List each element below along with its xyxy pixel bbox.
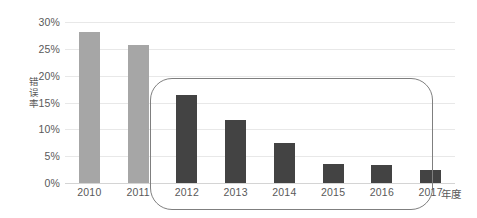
plot-area [65, 22, 455, 183]
x-axis-tick-labels: 20102011201220132014201520162017 [65, 186, 455, 198]
y-axis-tick-label: 5% [14, 150, 60, 162]
bar-series [65, 22, 455, 183]
y-axis-tick-label: 0% [14, 177, 60, 189]
gridline [65, 183, 455, 184]
x-axis-title: 年度 [441, 186, 461, 201]
bar-2017[interactable] [420, 170, 441, 183]
bar-slot [211, 22, 260, 183]
bar-slot [260, 22, 309, 183]
bar-2015[interactable] [323, 164, 344, 183]
bar-slot [114, 22, 163, 183]
bar-slot [309, 22, 358, 183]
bar-2011[interactable] [128, 45, 149, 183]
bar-2016[interactable] [371, 165, 392, 183]
chart-canvas: 错 误 率 0%5%10%15%20%25%30% 20102011201220… [0, 0, 477, 218]
x-axis-tick-label-2010: 2010 [65, 186, 114, 198]
x-axis-tick-label-2012: 2012 [163, 186, 212, 198]
x-axis-tick-label-2015: 2015 [309, 186, 358, 198]
y-axis-tick-labels: 0%5%10%15%20%25%30% [8, 22, 60, 183]
y-axis-tick-label: 15% [14, 97, 60, 109]
y-axis-tick-label: 10% [14, 123, 60, 135]
y-axis-tick-label: 30% [14, 16, 60, 28]
x-axis-tick-label-2011: 2011 [114, 186, 163, 198]
bar-2010[interactable] [79, 32, 100, 183]
bar-slot [163, 22, 212, 183]
x-axis-tick-label-2013: 2013 [211, 186, 260, 198]
x-axis-tick-label-2014: 2014 [260, 186, 309, 198]
y-axis-tick-label: 25% [14, 43, 60, 55]
bar-2013[interactable] [225, 120, 246, 183]
bar-slot [65, 22, 114, 183]
bar-2014[interactable] [274, 143, 295, 183]
bar-slot [358, 22, 407, 183]
bar-2012[interactable] [176, 95, 197, 183]
x-axis-tick-label-2016: 2016 [358, 186, 407, 198]
y-axis-tick-label: 20% [14, 70, 60, 82]
bar-slot [406, 22, 455, 183]
